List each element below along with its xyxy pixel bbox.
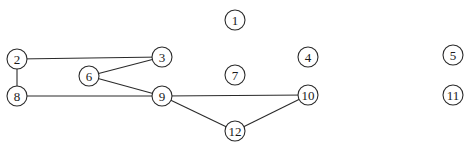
edge-9-12 (162, 96, 235, 131)
node-11: 11 (443, 85, 463, 105)
node-label: 9 (159, 89, 166, 104)
nodes-layer: 123456789101112 (7, 10, 463, 141)
edge-12-10 (235, 95, 308, 131)
node-label: 8 (14, 89, 21, 104)
edge-6-3 (89, 57, 162, 76)
node-5: 5 (443, 45, 463, 65)
node-label: 1 (232, 13, 239, 28)
node-label: 2 (14, 52, 21, 67)
node-12: 12 (225, 121, 245, 141)
node-4: 4 (298, 47, 318, 67)
node-label: 3 (159, 50, 166, 65)
node-label: 6 (86, 69, 93, 84)
node-label: 11 (447, 88, 460, 103)
node-10: 10 (298, 85, 318, 105)
node-label: 4 (305, 50, 312, 65)
node-1: 1 (225, 10, 245, 30)
node-label: 10 (302, 88, 315, 103)
node-label: 5 (450, 48, 457, 63)
node-7: 7 (225, 65, 245, 85)
edge-2-3 (17, 57, 162, 59)
node-label: 12 (229, 124, 242, 139)
node-3: 3 (152, 47, 172, 67)
node-6: 6 (79, 66, 99, 86)
node-8: 8 (7, 86, 27, 106)
edge-9-10 (162, 95, 308, 96)
graph-diagram: 123456789101112 (0, 0, 472, 149)
edge-6-9 (89, 76, 162, 96)
node-label: 7 (232, 68, 239, 83)
node-9: 9 (152, 86, 172, 106)
node-2: 2 (7, 49, 27, 69)
